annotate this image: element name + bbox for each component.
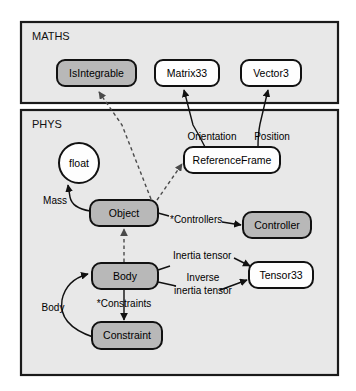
node-vector3-label: Vector3 bbox=[253, 67, 289, 79]
node-body[interactable]: Body bbox=[92, 263, 158, 289]
node-object-label: Object bbox=[109, 207, 139, 219]
edge-label-mass: Mass bbox=[43, 195, 67, 206]
node-constraint-label: Constraint bbox=[103, 329, 151, 341]
node-referenceframe-label: ReferenceFrame bbox=[193, 154, 272, 166]
node-tensor33[interactable]: Tensor33 bbox=[249, 262, 313, 288]
edge-label-constraints: *Constraints bbox=[97, 298, 151, 309]
node-matrix33[interactable]: Matrix33 bbox=[155, 60, 219, 86]
node-controller[interactable]: Controller bbox=[243, 212, 311, 238]
package-phys-label: PHYS bbox=[32, 118, 62, 130]
node-float-label: float bbox=[69, 157, 89, 169]
edge-label-inverse-line1: Inverse bbox=[187, 272, 220, 283]
node-body-label: Body bbox=[113, 270, 138, 282]
node-tensor33-label: Tensor33 bbox=[259, 269, 302, 281]
diagram-canvas: MATHS PHYS Orientation Position bbox=[0, 0, 356, 391]
package-maths-label: MATHS bbox=[32, 30, 70, 42]
edge-label-body-assoc: Body bbox=[42, 302, 65, 313]
node-isintegrable-label: IsIntegrable bbox=[69, 67, 124, 79]
uml-diagram: MATHS PHYS Orientation Position bbox=[0, 0, 356, 391]
node-float[interactable]: float bbox=[59, 143, 99, 183]
node-constraint[interactable]: Constraint bbox=[92, 322, 162, 349]
node-isintegrable[interactable]: IsIntegrable bbox=[57, 60, 136, 86]
node-referenceframe[interactable]: ReferenceFrame bbox=[184, 147, 280, 173]
edge-label-position: Position bbox=[254, 131, 290, 142]
edge-label-orientation: Orientation bbox=[188, 131, 237, 142]
node-object[interactable]: Object bbox=[90, 200, 158, 226]
edge-label-inverse-line2: inertia tensor bbox=[174, 285, 232, 296]
node-controller-label: Controller bbox=[254, 219, 300, 231]
edge-label-controllers: *Controllers bbox=[170, 214, 222, 225]
edge-label-inertia-tensor: Inertia tensor bbox=[173, 250, 232, 261]
node-vector3[interactable]: Vector3 bbox=[241, 60, 301, 86]
node-matrix33-label: Matrix33 bbox=[167, 67, 207, 79]
